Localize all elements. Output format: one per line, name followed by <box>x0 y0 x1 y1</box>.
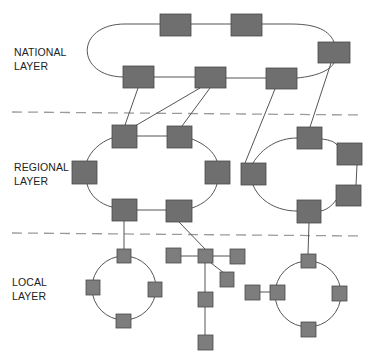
national-node <box>318 42 350 63</box>
local-node-hub <box>198 249 213 263</box>
regional-node <box>336 185 361 206</box>
regional-node <box>112 125 137 148</box>
link-r7-r11 <box>253 185 297 211</box>
regional-node <box>72 161 97 184</box>
network-hierarchy-diagram: NATIONAL LAYER REGIONAL LAYER LOCAL LAYE… <box>0 0 369 361</box>
national-node <box>231 14 262 36</box>
link-r9-r10 <box>356 165 357 185</box>
link-n6-r7 <box>245 89 275 163</box>
link-r1-r3 <box>87 138 112 161</box>
local-node <box>117 249 131 263</box>
local-node <box>198 292 213 307</box>
local-node <box>230 249 245 264</box>
local-nodes <box>86 248 347 350</box>
local-node <box>148 282 162 297</box>
regional-nodes <box>72 125 362 223</box>
link-r2-r4 <box>192 139 217 161</box>
divider-national-regional <box>12 112 362 115</box>
regional-node <box>297 200 321 223</box>
link-r7-r8 <box>253 138 297 163</box>
regional-node <box>166 200 192 222</box>
local-node <box>116 314 131 328</box>
national-layer-label-line2: LAYER <box>14 59 67 73</box>
link-n5-r2 <box>182 88 210 126</box>
link-n4-r1 <box>125 88 138 125</box>
regional-node <box>205 161 230 184</box>
local-node <box>220 272 234 287</box>
local-node <box>301 322 316 337</box>
divider-regional-local <box>12 233 362 236</box>
regional-node <box>297 127 322 149</box>
local-node <box>270 285 285 300</box>
national-node <box>160 14 191 36</box>
local-ring-left <box>92 256 156 320</box>
national-node <box>195 67 226 88</box>
local-layer-label-line1: LOCAL <box>12 275 47 289</box>
link-r10-r11 <box>321 200 336 211</box>
national-node <box>123 66 154 88</box>
local-node <box>245 285 260 300</box>
link-r4-r6 <box>192 184 217 208</box>
regional-node <box>241 163 266 185</box>
link-r6-hub <box>179 222 205 249</box>
link-r11-l5 <box>308 223 309 254</box>
link-r3-r5 <box>87 184 112 207</box>
local-layer-label: LOCAL LAYER <box>12 275 47 303</box>
local-node <box>86 280 100 295</box>
regional-node <box>337 143 362 165</box>
link-hub-diag <box>211 263 224 273</box>
regional-layer-label-line1: REGIONAL <box>14 160 69 174</box>
local-node <box>166 248 181 263</box>
regional-node <box>167 126 192 148</box>
national-layer-label: NATIONAL LAYER <box>14 45 67 73</box>
local-node <box>332 286 347 301</box>
national-layer-label-line1: NATIONAL <box>14 45 67 59</box>
local-layer-label-line2: LAYER <box>12 289 47 303</box>
regional-layer-label: REGIONAL LAYER <box>14 160 69 188</box>
regional-layer-label-line2: LAYER <box>14 174 69 188</box>
link-r8-r9 <box>322 139 337 145</box>
national-node <box>266 68 297 89</box>
link-n5-r1 <box>135 88 200 126</box>
regional-node <box>112 199 137 221</box>
local-node <box>198 335 213 350</box>
local-node <box>301 254 316 268</box>
